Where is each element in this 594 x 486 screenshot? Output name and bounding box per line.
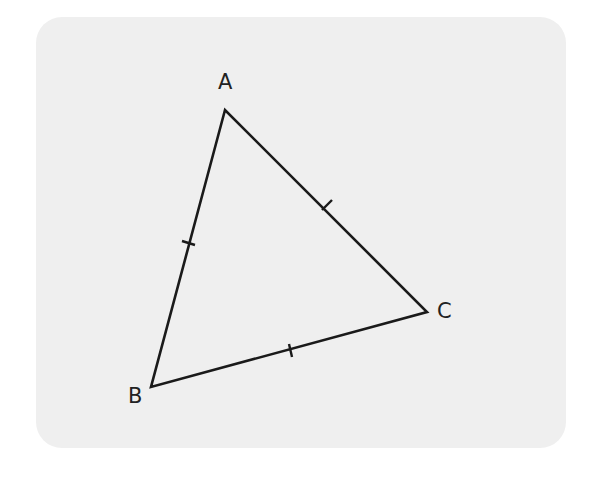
vertex-label-b: B (128, 386, 142, 407)
tick-mark-bc (289, 344, 292, 357)
vertex-label-a: A (218, 72, 232, 93)
triangle-diagram (0, 0, 594, 486)
tick-mark-ac (322, 200, 332, 210)
vertex-label-c: C (437, 301, 452, 322)
